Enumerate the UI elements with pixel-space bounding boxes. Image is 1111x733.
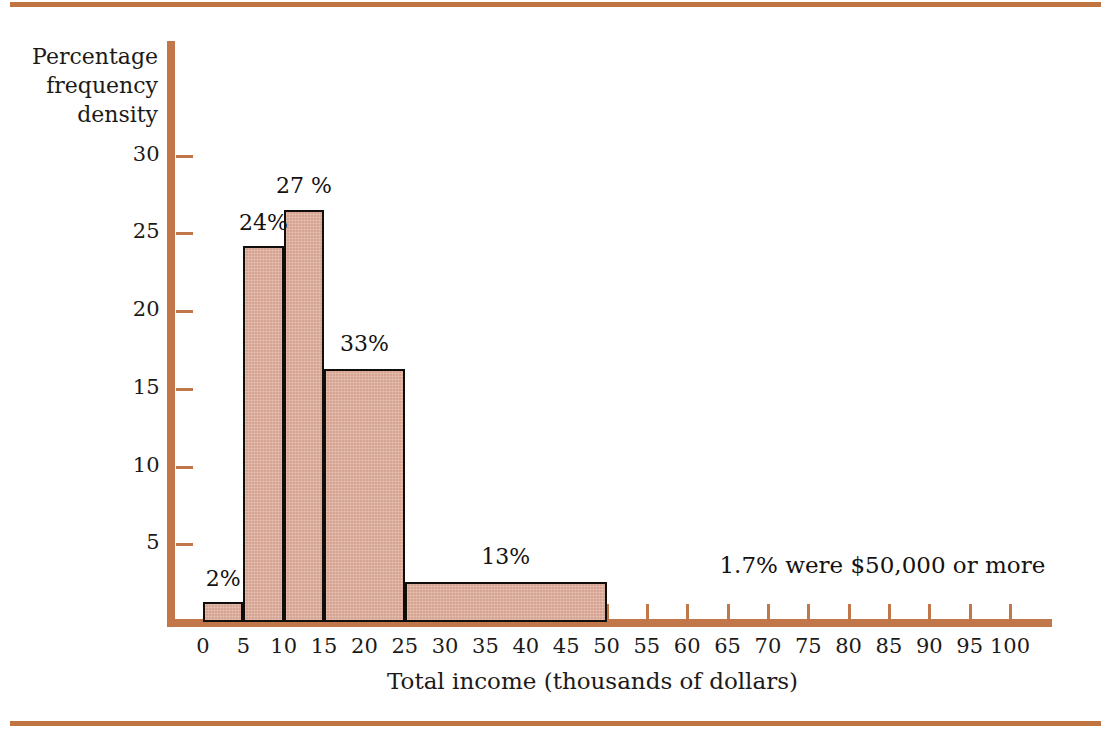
y-tick-label-30: 30 (100, 142, 160, 166)
bar-10-15 (284, 210, 324, 622)
bar-label-10-15: 27 % (276, 173, 332, 198)
y-tick-25 (176, 232, 193, 235)
x-tick-label-100: 100 (980, 634, 1040, 658)
x-tick-70 (767, 604, 770, 620)
histogram-figure: Percentage frequency density 51015202530… (0, 0, 1111, 733)
x-tick-65 (727, 604, 730, 620)
y-tick-5 (176, 543, 193, 546)
x-tick-60 (686, 604, 689, 620)
bar-5-10 (243, 246, 283, 622)
y-tick-label-25: 25 (100, 219, 160, 243)
bar-0-5 (203, 602, 243, 622)
bar-label-5-10: 24% (239, 210, 288, 235)
y-tick-10 (176, 466, 193, 469)
bar-15-25 (324, 369, 405, 622)
y-tick-15 (176, 388, 193, 391)
y-tick-label-15: 15 (100, 375, 160, 399)
x-axis-title-text: Total income (thousands of dollars) (387, 668, 798, 694)
y-tick-label-10: 10 (100, 453, 160, 477)
x-tick-95 (969, 604, 972, 620)
x-tick-55 (646, 604, 649, 620)
y-tick-label-5: 5 (100, 530, 160, 554)
x-axis-title: Total income (thousands of dollars) (0, 668, 1111, 694)
x-tick-100 (1009, 604, 1012, 620)
bar-label-25-50: 13% (481, 544, 530, 569)
y-tick-30 (176, 155, 193, 158)
x-tick-85 (888, 604, 891, 620)
x-tick-90 (928, 604, 931, 620)
x-tick-75 (807, 604, 810, 620)
x-tick-80 (848, 604, 851, 620)
bar-label-0-5: 2% (206, 566, 241, 591)
y-axis-tick-labels: 51015202530 (95, 0, 160, 733)
y-tick-20 (176, 310, 193, 313)
bar-label-15-25: 33% (340, 331, 389, 356)
y-tick-label-20: 20 (100, 297, 160, 321)
annotation-text: 1.7% were $50,000 or more (719, 552, 1045, 578)
page-rule-bottom (10, 721, 1101, 726)
y-axis-line (167, 41, 175, 627)
bar-25-50 (405, 582, 607, 622)
page-rule-top (10, 2, 1101, 7)
